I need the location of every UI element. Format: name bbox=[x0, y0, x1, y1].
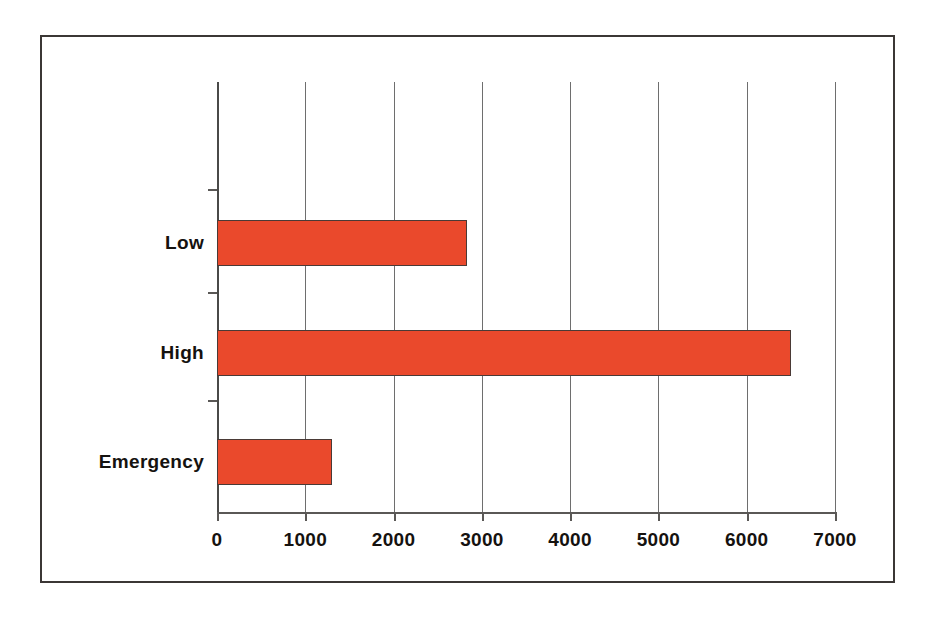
gridline-2000 bbox=[394, 82, 395, 512]
value-tick-6000 bbox=[747, 512, 749, 521]
value-tick-3000 bbox=[482, 512, 484, 521]
gridline-6000 bbox=[747, 82, 748, 512]
gridline-3000 bbox=[482, 82, 483, 512]
value-tick-7000 bbox=[835, 512, 837, 521]
value-tick-1000 bbox=[305, 512, 307, 521]
bar-low[interactable]: Low bbox=[217, 220, 467, 266]
category-label-emergency: Emergency bbox=[99, 451, 204, 473]
bar-emergency[interactable]: Emergency bbox=[217, 439, 332, 485]
category-tick-2 bbox=[208, 292, 217, 294]
value-tick-4000 bbox=[570, 512, 572, 521]
gridline-7000 bbox=[835, 82, 836, 512]
x-tick-label-3000: 3000 bbox=[460, 529, 503, 551]
value-tick-5000 bbox=[658, 512, 660, 521]
x-tick-label-4000: 4000 bbox=[548, 529, 591, 551]
gridline-4000 bbox=[570, 82, 571, 512]
bar-high[interactable]: High bbox=[217, 330, 791, 376]
value-tick-2000 bbox=[394, 512, 396, 521]
x-tick-label-1000: 1000 bbox=[284, 529, 327, 551]
plot-area: Low High Emergency bbox=[217, 82, 835, 512]
category-label-low: Low bbox=[165, 232, 204, 254]
value-tick-0 bbox=[217, 512, 219, 521]
x-tick-label-2000: 2000 bbox=[372, 529, 415, 551]
x-tick-label-7000: 7000 bbox=[813, 529, 856, 551]
value-axis-baseline bbox=[217, 512, 835, 514]
x-tick-label-6000: 6000 bbox=[725, 529, 768, 551]
category-tick-3 bbox=[208, 400, 217, 402]
x-tick-label-5000: 5000 bbox=[637, 529, 680, 551]
category-label-high: High bbox=[161, 342, 204, 364]
gridline-5000 bbox=[658, 82, 659, 512]
category-tick-1 bbox=[208, 189, 217, 191]
chart-border-frame: Low High Emergency 0 1000 2000 3000 40 bbox=[40, 35, 895, 583]
chart-figure: Low High Emergency 0 1000 2000 3000 40 bbox=[0, 0, 935, 619]
x-tick-label-0: 0 bbox=[212, 529, 223, 551]
